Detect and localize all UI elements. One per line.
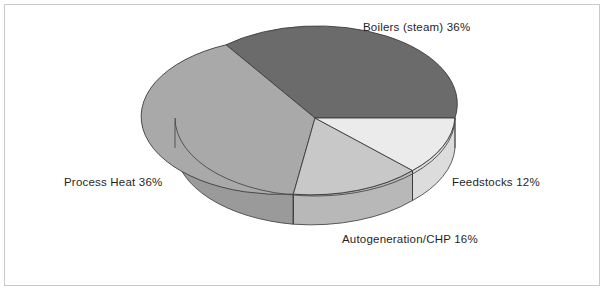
pie-chart-graphic (0, 0, 605, 291)
pie-label-process-heat: Process Heat 36% (64, 177, 162, 189)
pie-label-autogeneration: Autogeneration/CHP 16% (342, 234, 478, 246)
pie-chart-figure: Boilers (steam) 36% Feedstocks 12% Autog… (0, 0, 605, 291)
pie-top-surface (141, 26, 457, 195)
pie-label-feedstocks: Feedstocks 12% (452, 177, 540, 189)
pie-label-boilers: Boilers (steam) 36% (363, 22, 470, 34)
